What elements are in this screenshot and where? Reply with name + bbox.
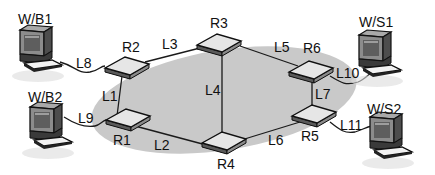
label-ws1: W/S1 [359, 14, 393, 30]
label-l2: L2 [154, 137, 170, 153]
label-r2: R2 [122, 39, 140, 55]
label-l1: L1 [102, 88, 118, 104]
label-l4: L4 [205, 82, 221, 98]
label-l9: L9 [78, 110, 94, 126]
label-r4: R4 [217, 156, 235, 172]
workstation-wb2[interactable] [22, 102, 74, 159]
label-l8: L8 [76, 55, 92, 71]
label-l10: L10 [336, 65, 360, 81]
workstation-ws2[interactable] [362, 112, 414, 169]
label-r5: R5 [301, 128, 319, 144]
label-wb2: W/B2 [28, 89, 62, 105]
label-wb1: W/B1 [18, 11, 52, 27]
network-diagram: W/B1 W/B2 W/S1 W/S2 R2 R3 R6 R1 R4 R5 L1… [0, 0, 435, 175]
label-r6: R6 [303, 40, 321, 56]
workstation-wb1[interactable] [12, 25, 64, 82]
label-l5: L5 [274, 39, 290, 55]
label-l6: L6 [268, 132, 284, 148]
label-l11: L11 [340, 117, 363, 133]
label-ws2: W/S2 [367, 101, 401, 117]
label-l7: L7 [315, 86, 331, 102]
label-r3: R3 [210, 15, 228, 31]
label-r1: R1 [113, 132, 131, 148]
label-l3: L3 [162, 36, 178, 52]
